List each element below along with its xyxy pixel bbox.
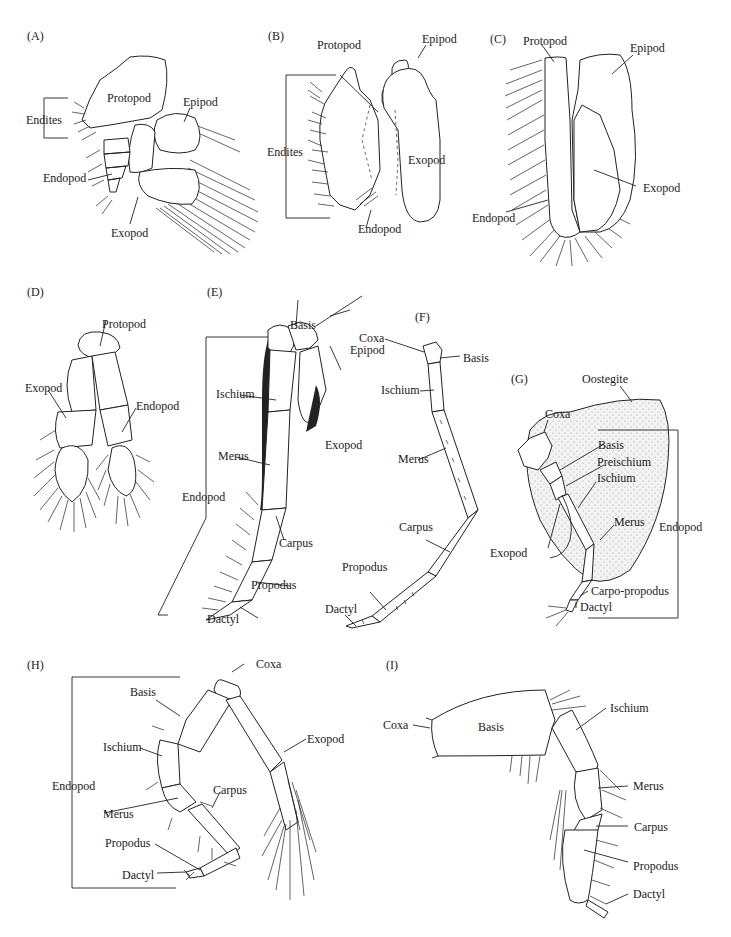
- g-endopod-label: Endopod: [659, 520, 702, 534]
- panel-h-label: (H): [27, 658, 44, 672]
- c-exopod-label: Exopod: [643, 181, 680, 195]
- oostegite-shape: [527, 399, 669, 581]
- panel-f-label: (F): [415, 310, 430, 324]
- f-merus-label: Merus: [398, 452, 429, 466]
- b-endites-label: Endites: [267, 145, 303, 159]
- g-carpo-propodus-label: Carpo-propodus: [591, 584, 669, 598]
- e-propodus-label: Propodus: [251, 578, 296, 592]
- panel-d-label: (D): [27, 285, 44, 299]
- g-dactyl-label: Dactyl: [580, 600, 612, 614]
- h-merus-label: Merus: [103, 807, 134, 821]
- h-coxa-label: Coxa: [256, 657, 281, 671]
- a-exopod-label: Exopod: [111, 226, 148, 240]
- g-merus-label: Merus: [614, 515, 645, 529]
- b-endopod-label: Endopod: [358, 222, 401, 236]
- a-endites-label: Endites: [26, 113, 62, 127]
- panel-i-drawing: [413, 690, 628, 918]
- panel-a-drawing: [44, 56, 258, 254]
- e-ischium-label: Ischium: [216, 387, 255, 401]
- panel-a-label: (A): [27, 29, 44, 43]
- merus-shape: [162, 784, 196, 812]
- exopod-shape: [139, 168, 200, 204]
- panel-c-label: (C): [490, 32, 506, 46]
- panel-g-label: (G): [511, 372, 528, 386]
- panel-e-drawing: [158, 296, 362, 620]
- e-epipod-label: Epipod: [350, 343, 385, 357]
- h-exopod-label: Exopod: [307, 732, 344, 746]
- ischium-shape: [157, 740, 180, 788]
- f-carpus-label: Carpus: [399, 520, 433, 534]
- merus-shape: [432, 410, 478, 518]
- f-propodus-label: Propodus: [342, 560, 387, 574]
- appendage-figure: (A) Protopod Epipod Endites Endopod Exop…: [0, 0, 731, 937]
- h-carpus-label: Carpus: [213, 783, 247, 797]
- panel-b-label: (B): [268, 29, 284, 43]
- g-preischium-label: Preischium: [597, 455, 651, 469]
- panel-b-drawing: [286, 45, 440, 228]
- i-basis-label: Basis: [478, 720, 504, 734]
- a-endopod-label: Endopod: [43, 171, 86, 185]
- panel-d-drawing: [34, 320, 154, 532]
- i-merus-label: Merus: [633, 779, 664, 793]
- i-dactyl-label: Dactyl: [633, 887, 665, 901]
- e-endopod-label: Endopod: [182, 490, 225, 504]
- h-ischium-label: Ischium: [103, 740, 142, 754]
- d-endopod-label: Endopod: [136, 399, 179, 413]
- e-basis-label: Basis: [290, 318, 316, 332]
- carpus-shape: [428, 510, 478, 576]
- panel-e-label: (E): [207, 285, 222, 299]
- c-protopod-label: Protopod: [523, 34, 567, 48]
- propodus-shape: [562, 830, 598, 903]
- a-protopod-label: Protopod: [107, 91, 151, 105]
- g-oostegite-label: Oostegite: [582, 372, 628, 386]
- panel-h-drawing: [72, 664, 316, 900]
- g-basis-label: Basis: [598, 438, 624, 452]
- d-exopod-label: Exopod: [25, 381, 62, 395]
- f-ischium-label: Ischium: [381, 383, 420, 397]
- panel-c-drawing: [505, 45, 636, 266]
- carpus-shape: [188, 804, 240, 856]
- c-epipod-label: Epipod: [630, 41, 665, 55]
- propodus-shape: [372, 572, 436, 622]
- e-dactyl-label: Dactyl: [207, 612, 239, 626]
- merus-shape: [574, 768, 602, 820]
- h-endopod-label: Endopod: [52, 779, 95, 793]
- i-carpus-label: Carpus: [634, 820, 668, 834]
- dactyl-shape: [186, 868, 204, 878]
- d-protopod-label: Protopod: [102, 317, 146, 331]
- i-coxa-label: Coxa: [383, 718, 408, 732]
- panel-i-label: (I): [386, 658, 398, 672]
- f-dactyl-label: Dactyl: [325, 602, 357, 616]
- exopod-base: [226, 696, 282, 772]
- carpus-shape: [252, 508, 286, 562]
- b-epipod-label: Epipod: [422, 32, 457, 46]
- ischium-shape: [268, 350, 296, 412]
- b-protopod-label: Protopod: [317, 38, 361, 52]
- h-basis-label: Basis: [130, 685, 156, 699]
- i-propodus-label: Propodus: [633, 859, 678, 873]
- e-merus-label: Merus: [218, 449, 249, 463]
- g-ischium-label: Ischium: [597, 471, 636, 485]
- g-exopod-label: Exopod: [490, 546, 527, 560]
- g-coxa-label: Coxa: [545, 407, 570, 421]
- h-dactyl-label: Dactyl: [122, 868, 154, 882]
- c-endopod-label: Endopod: [472, 211, 515, 225]
- a-epipod-label: Epipod: [183, 95, 218, 109]
- e-carpus-label: Carpus: [279, 536, 313, 550]
- epipod-shape: [154, 113, 200, 153]
- i-ischium-label: Ischium: [610, 701, 649, 715]
- endopod-distal: [108, 446, 136, 496]
- h-propodus-label: Propodus: [105, 836, 150, 850]
- f-basis-label: Basis: [463, 351, 489, 365]
- exopod-distal: [55, 446, 88, 502]
- propodus-shape: [200, 848, 240, 876]
- e-exopod-label: Exopod: [325, 438, 362, 452]
- dactyl-shape: [586, 900, 608, 918]
- b-exopod-label: Exopod: [408, 153, 445, 167]
- basis-shape: [178, 690, 232, 752]
- exopod-shape: [383, 68, 440, 222]
